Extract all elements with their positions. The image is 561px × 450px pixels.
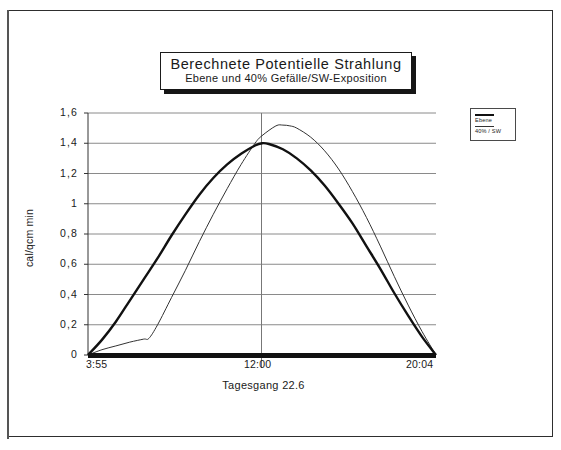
y-tick-label: 0,6 — [44, 257, 78, 269]
y-tick-label: 0,4 — [44, 288, 78, 300]
y-tick-label: 1,2 — [44, 167, 78, 179]
legend-line-swatch — [475, 126, 494, 127]
x-axis-label: Tagesgang 22.6 — [0, 379, 561, 391]
x-axis-label-text: Tagesgang 22.6 — [222, 379, 305, 391]
y-tick-label: 1,4 — [44, 136, 78, 148]
title-shadow-bottom — [164, 89, 416, 94]
page-title: Berechnete Potentielle Strahlung — [161, 56, 411, 72]
y-tick-label: 0,2 — [44, 318, 78, 330]
y-axis-label: cal/qcm min — [23, 195, 35, 281]
y-tick-label: 1 — [44, 197, 78, 209]
x-tick-label: 20:04 — [406, 358, 433, 370]
legend-entry: Ebene — [475, 114, 511, 124]
x-tick-label: 3:55 — [86, 358, 107, 370]
x-tick-label: 12:00 — [244, 358, 271, 370]
chart-legend: Ebene40% / SW — [470, 108, 516, 141]
legend-line-swatch — [475, 114, 494, 116]
page-subtitle: Ebene und 40% Gefälle/SW-Exposition — [161, 72, 411, 84]
legend-entry: 40% / SW — [475, 126, 511, 135]
y-tick-label: 0,8 — [44, 227, 78, 239]
scan-bleedthrough-artifact — [330, 386, 333, 396]
y-tick-label: 1,6 — [44, 106, 78, 118]
y-tick-label: 0 — [44, 348, 78, 360]
legend-label: Ebene — [475, 117, 511, 124]
legend-label: 40% / SW — [475, 128, 511, 135]
chart-title-block: Berechnete Potentielle Strahlung Ebene u… — [160, 52, 412, 90]
